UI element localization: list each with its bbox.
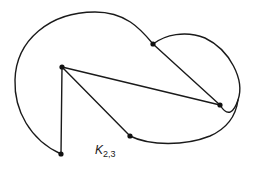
vertex-e (58, 151, 63, 156)
vertex-b (150, 41, 155, 46)
edge-b-c-curve (153, 34, 240, 112)
graph-label-main: K (95, 143, 103, 157)
edge-a-c (62, 67, 220, 105)
edge-b-c (153, 44, 220, 105)
graph-diagram (0, 0, 254, 175)
edge-a-d (62, 67, 130, 136)
vertex-a (59, 64, 64, 69)
graph-label-subscript: 2,3 (103, 149, 116, 159)
graph-label: K2,3 (95, 143, 116, 159)
vertex-d (127, 133, 132, 138)
vertex-c (217, 102, 222, 107)
edge-a-e (61, 67, 62, 154)
edge-e-b-curve (15, 12, 153, 154)
